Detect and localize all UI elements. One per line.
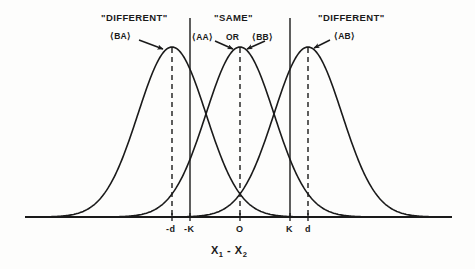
tick-label-pos-d: d bbox=[305, 224, 311, 234]
arrow-ab bbox=[314, 40, 330, 48]
curve-tag-ba: ⟨BA⟩ bbox=[110, 31, 131, 41]
arrow-ba bbox=[139, 40, 163, 49]
x-axis-label-minus: - bbox=[224, 244, 235, 256]
x-axis-label-x1: X bbox=[211, 244, 219, 256]
arrow-aa bbox=[215, 41, 233, 49]
category-label-left: "DIFFERENT" bbox=[101, 12, 168, 23]
category-label-right: "DIFFERENT" bbox=[318, 12, 385, 23]
tick-label-zero: O bbox=[236, 224, 243, 234]
tick-label-neg-k: -K bbox=[184, 224, 194, 234]
x-axis-label-x2: X bbox=[235, 244, 243, 256]
curve-tag-or: OR bbox=[226, 32, 239, 42]
tick-label-pos-k: K bbox=[286, 224, 293, 234]
x-axis-label: X1 - X2 bbox=[211, 244, 247, 259]
figure-canvas: "DIFFERENT" "SAME" "DIFFERENT" ⟨BA⟩ ⟨AA⟩… bbox=[0, 0, 475, 269]
x-axis-label-sub2: 2 bbox=[243, 250, 248, 259]
category-label-center: "SAME" bbox=[214, 12, 253, 23]
curve-tag-aa: ⟨AA⟩ bbox=[192, 32, 213, 42]
arrow-bb bbox=[247, 41, 265, 49]
curve-tag-bb: ⟨BB⟩ bbox=[252, 32, 273, 42]
curve-tag-ab: ⟨AB⟩ bbox=[334, 31, 355, 41]
tick-label-neg-d: -d bbox=[166, 224, 175, 234]
